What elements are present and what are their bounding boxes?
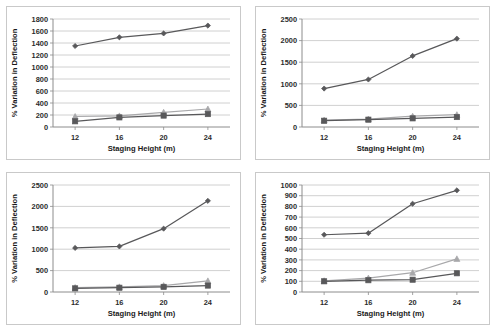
x-tick-label: 16 <box>364 298 372 307</box>
y-tick-label: 0 <box>44 288 48 297</box>
chart-panel-frame: 0500100015002000250012162024Staging Heig… <box>255 6 490 160</box>
data-point-marker-square <box>73 119 78 124</box>
y-tick-label: 800 <box>285 202 297 211</box>
data-series-series-3 <box>73 112 211 124</box>
y-tick-label: 2000 <box>32 202 48 211</box>
data-point-marker-diamond <box>322 86 327 91</box>
x-tick-label: 12 <box>320 133 328 142</box>
y-tick-label: 0 <box>293 123 297 132</box>
data-point-marker-square <box>322 279 327 284</box>
line-chart-panel-b: 0500100015002000250012162024Staging Heig… <box>256 7 491 161</box>
y-tick-label: 1600 <box>32 27 48 36</box>
x-tick-label: 12 <box>71 298 79 307</box>
x-tick-label: 20 <box>409 298 417 307</box>
y-tick-label: 900 <box>285 191 297 200</box>
x-tick-label: 16 <box>115 133 123 142</box>
data-series-series-1 <box>73 23 211 49</box>
x-axis-ticks: 12162024 <box>71 292 213 307</box>
data-point-marker-square <box>454 114 459 119</box>
data-point-marker-square <box>161 284 166 289</box>
data-point-marker-diamond <box>73 245 78 250</box>
gridlines <box>53 185 230 292</box>
data-point-marker-diamond <box>73 43 78 48</box>
y-tick-label: 400 <box>285 245 297 254</box>
y-tick-label: 300 <box>285 256 297 265</box>
y-tick-label: 1000 <box>281 181 297 190</box>
y-tick-label: 1000 <box>32 245 48 254</box>
data-point-marker-diamond <box>366 77 371 82</box>
x-axis-title: Staging Height (m) <box>357 309 425 318</box>
y-axis-title: % Variation in Deflection <box>10 28 19 117</box>
y-axis-ticks: 05001000150020002500 <box>32 181 53 297</box>
x-tick-label: 20 <box>409 133 417 142</box>
data-point-marker-triangle <box>454 256 460 262</box>
y-tick-label: 1200 <box>32 51 48 60</box>
data-point-marker-diamond <box>161 31 166 36</box>
x-tick-label: 20 <box>160 298 168 307</box>
data-point-marker-square <box>410 277 415 282</box>
data-point-marker-square <box>454 271 459 276</box>
x-axis-title: Staging Height (m) <box>108 144 176 153</box>
data-point-marker-diamond <box>322 232 327 237</box>
gridlines <box>302 19 479 127</box>
x-tick-label: 12 <box>320 298 328 307</box>
chart-panel-frame: 0200400600800100012001400160018001216202… <box>6 6 241 160</box>
x-axis-ticks: 12162024 <box>320 292 462 307</box>
y-axis-ticks: 01002003004005006007008009001000 <box>281 181 302 297</box>
data-point-marker-diamond <box>117 244 122 249</box>
chart-figure-grid: 0200400600800100012001400160018001216202… <box>0 0 498 331</box>
y-tick-label: 600 <box>285 224 297 233</box>
data-series-series-1 <box>322 36 460 91</box>
y-tick-label: 200 <box>36 111 48 120</box>
data-point-marker-square <box>410 116 415 121</box>
y-tick-label: 1800 <box>32 15 48 24</box>
x-tick-label: 16 <box>115 298 123 307</box>
y-tick-label: 2000 <box>281 36 297 45</box>
x-axis-title: Staging Height (m) <box>108 309 176 318</box>
x-tick-label: 24 <box>453 133 462 142</box>
y-tick-label: 1400 <box>32 39 48 48</box>
line-chart-panel-d: 0100200300400500600700800900100012162024… <box>256 173 491 326</box>
y-tick-label: 500 <box>36 266 48 275</box>
x-tick-label: 24 <box>204 133 213 142</box>
y-tick-label: 1500 <box>281 58 297 67</box>
data-point-marker-square <box>366 117 371 122</box>
y-tick-label: 1500 <box>32 224 48 233</box>
y-axis-title: % Variation in Deflection <box>259 28 268 117</box>
data-series-series-2 <box>72 106 211 119</box>
data-point-marker-square <box>161 113 166 118</box>
y-tick-label: 500 <box>285 101 297 110</box>
y-tick-label: 800 <box>36 75 48 84</box>
y-tick-label: 2500 <box>32 181 48 190</box>
line-chart-panel-c: 0500100015002000250012162024Staging Heig… <box>7 173 242 326</box>
y-tick-label: 0 <box>293 288 297 297</box>
chart-panel-panel-c: 0500100015002000250012162024Staging Heig… <box>0 166 249 331</box>
y-axis-title: % Variation in Deflection <box>259 194 268 283</box>
chart-panel-panel-d: 0100200300400500600700800900100012162024… <box>249 166 498 331</box>
data-point-marker-diamond <box>117 35 122 40</box>
y-tick-label: 2500 <box>281 15 297 24</box>
data-point-marker-square <box>205 283 210 288</box>
data-series-series-1 <box>322 188 460 238</box>
x-tick-label: 20 <box>160 133 168 142</box>
x-tick-label: 16 <box>364 133 372 142</box>
data-series-series-3 <box>322 271 460 284</box>
x-axis-ticks: 12162024 <box>71 127 213 142</box>
y-tick-label: 1000 <box>32 63 48 72</box>
chart-panel-frame: 0500100015002000250012162024Staging Heig… <box>6 172 241 325</box>
x-tick-label: 12 <box>71 133 79 142</box>
data-point-marker-square <box>73 286 78 291</box>
x-tick-label: 24 <box>204 298 213 307</box>
data-point-marker-diamond <box>454 188 459 193</box>
y-axis-title: % Variation in Deflection <box>10 194 19 283</box>
y-tick-label: 400 <box>36 99 48 108</box>
y-axis-ticks: 020040060080010001200140016001800 <box>32 15 53 132</box>
chart-panel-panel-b: 0500100015002000250012162024Staging Heig… <box>249 0 498 166</box>
y-tick-label: 1000 <box>281 80 297 89</box>
y-tick-label: 200 <box>285 266 297 275</box>
x-axis-ticks: 12162024 <box>320 127 462 142</box>
data-point-marker-square <box>322 118 327 123</box>
data-point-marker-square <box>366 278 371 283</box>
data-point-marker-square <box>117 285 122 290</box>
data-point-marker-diamond <box>205 23 210 28</box>
